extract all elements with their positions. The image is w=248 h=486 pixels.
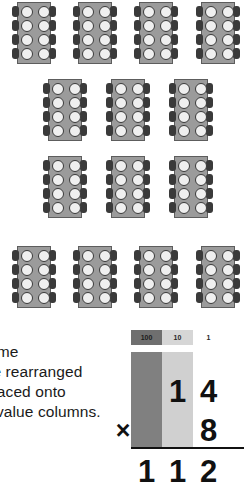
- block-side-tab: [80, 188, 87, 199]
- caption-line-1: the same: [0, 342, 134, 362]
- block-side-tab: [134, 250, 141, 261]
- block-side-tab: [206, 160, 213, 171]
- block-side-tab: [110, 20, 117, 31]
- block-stud: [195, 97, 207, 109]
- block: [169, 156, 213, 218]
- block-stud: [222, 292, 234, 304]
- block-side-tab: [80, 160, 87, 171]
- block-side-tab: [80, 202, 87, 213]
- block-side-tab: [206, 202, 213, 213]
- block-side-tab: [12, 34, 19, 45]
- block: [106, 79, 150, 141]
- block-stud: [52, 202, 64, 214]
- block-side-tab: [106, 97, 113, 108]
- block-side-tab: [233, 20, 240, 31]
- block-stud: [143, 264, 155, 276]
- block-side-tab: [43, 97, 50, 108]
- block-side-tab: [43, 202, 50, 213]
- block-side-tab: [171, 250, 178, 261]
- block-stud: [132, 174, 144, 186]
- block-side-tab: [206, 174, 213, 185]
- block-side-tab: [143, 188, 150, 199]
- block-side-tab: [49, 34, 56, 45]
- block-stud: [195, 174, 207, 186]
- block-stud: [21, 264, 33, 276]
- block-side-tab: [169, 202, 176, 213]
- product-tens: 1: [162, 456, 193, 486]
- block-stud: [82, 264, 94, 276]
- block-stud: [222, 264, 234, 276]
- block-stud: [69, 188, 81, 200]
- block-side-tab: [12, 250, 19, 261]
- block: [12, 246, 56, 308]
- block-side-tab: [106, 174, 113, 185]
- block-stud: [69, 111, 81, 123]
- block-stud: [52, 160, 64, 172]
- product-hundreds: 1: [131, 456, 162, 486]
- multiplication-operator: ×: [113, 415, 133, 446]
- block-side-tab: [12, 48, 19, 59]
- block-stud: [143, 292, 155, 304]
- block-stud: [99, 48, 111, 60]
- answer-rule-line: [131, 447, 244, 449]
- block-stud: [82, 48, 94, 60]
- block-side-tab: [143, 97, 150, 108]
- block-stud: [222, 20, 234, 32]
- block-stud: [115, 111, 127, 123]
- block-side-tab: [233, 292, 240, 303]
- block-side-tab: [73, 34, 80, 45]
- block-stud: [38, 48, 50, 60]
- block-side-tab: [169, 174, 176, 185]
- block-side-tab: [110, 6, 117, 17]
- block-stud: [178, 125, 190, 137]
- block: [196, 246, 240, 308]
- block-stud: [52, 83, 64, 95]
- block-side-tab: [12, 6, 19, 17]
- block-side-tab: [80, 111, 87, 122]
- block-side-tab: [134, 264, 141, 275]
- header-ones: 1: [193, 330, 224, 345]
- block-stud: [205, 20, 217, 32]
- product-ones: 2: [193, 456, 224, 486]
- block-side-tab: [143, 174, 150, 185]
- block-stud: [160, 264, 172, 276]
- block-stud: [160, 34, 172, 46]
- block-stud: [143, 34, 155, 46]
- block-side-tab: [143, 202, 150, 213]
- block-stud: [21, 20, 33, 32]
- block-stud: [82, 6, 94, 18]
- block-side-tab: [49, 48, 56, 59]
- block-stud: [99, 20, 111, 32]
- block-side-tab: [233, 278, 240, 289]
- block-stud: [143, 250, 155, 262]
- block: [106, 156, 150, 218]
- block: [73, 2, 117, 64]
- block-side-tab: [233, 48, 240, 59]
- block-side-tab: [73, 6, 80, 17]
- block-side-tab: [43, 174, 50, 185]
- block-stud: [21, 34, 33, 46]
- block-side-tab: [106, 83, 113, 94]
- header-hundreds: 100: [131, 330, 162, 345]
- block-stud: [143, 20, 155, 32]
- block-side-tab: [73, 264, 80, 275]
- block-stud: [115, 160, 127, 172]
- block: [12, 2, 56, 64]
- block-side-tab: [134, 6, 141, 17]
- block-stud: [222, 6, 234, 18]
- block-stud: [115, 188, 127, 200]
- place-value-header-row: 100 10 1: [131, 330, 217, 345]
- block-side-tab: [80, 125, 87, 136]
- block-side-tab: [12, 264, 19, 275]
- block-stud: [38, 20, 50, 32]
- block-stud: [69, 97, 81, 109]
- block-stud: [132, 160, 144, 172]
- block-stud: [52, 174, 64, 186]
- block-stud: [143, 6, 155, 18]
- block-side-tab: [73, 292, 80, 303]
- block-stud: [222, 34, 234, 46]
- block-side-tab: [110, 292, 117, 303]
- block-side-tab: [196, 292, 203, 303]
- block-side-tab: [171, 6, 178, 17]
